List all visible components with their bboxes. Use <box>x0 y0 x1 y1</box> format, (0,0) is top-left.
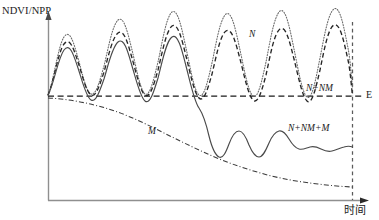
y-axis-label: NDVI/NPP <box>2 6 51 17</box>
x-axis-arrowhead <box>360 197 369 203</box>
x-axis-label: 时间 <box>344 205 366 216</box>
series-label-n-nm-m: N+NM+M <box>288 124 329 134</box>
chart-figure: NDVI/NPP 时间 N N+NM N+NM+M M E <box>0 0 379 220</box>
series-label-n-nm: N+NM <box>306 84 333 94</box>
series-label-n: N <box>249 30 255 40</box>
series-curve-m <box>48 98 353 187</box>
chart-plot-area <box>0 0 379 220</box>
equilibrium-label: E <box>366 90 372 100</box>
series-label-m: M <box>148 127 156 137</box>
